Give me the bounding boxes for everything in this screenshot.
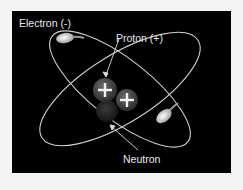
electron-particle (55, 32, 74, 45)
arrowhead-icon (103, 72, 108, 77)
nucleus (93, 78, 138, 122)
atom-diagram-panel: Electron (-) Proton (+) Neutron (12, 11, 231, 173)
neutron-label: Neutron (123, 153, 160, 165)
proton-label: Proton (+) (116, 32, 163, 44)
electron-label: Electron (-) (19, 17, 71, 29)
neutron-particle (96, 100, 118, 122)
neutron-pointer (112, 127, 138, 150)
